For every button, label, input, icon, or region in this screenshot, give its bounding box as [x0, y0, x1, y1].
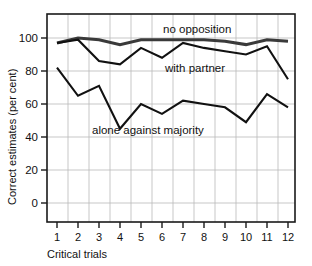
y-tick-labels: 100 80 60 40 20 0 [19, 32, 38, 209]
x-tick-label: 8 [201, 231, 207, 243]
x-tick-label: 12 [282, 231, 294, 243]
series-label-with-partner: with partner [164, 62, 225, 74]
x-tick-labels: 1 2 3 4 5 6 7 8 9 10 11 12 [54, 231, 294, 243]
y-axis-title: Correct estimates (per cent) [6, 69, 18, 205]
x-tick-label: 3 [96, 231, 102, 243]
y-tick-label: 80 [25, 65, 38, 77]
x-axis-ticks [57, 222, 288, 228]
x-tick-label: 9 [222, 231, 228, 243]
line-chart: 100 80 60 40 20 0 1 2 3 4 5 6 7 8 9 10 1… [0, 0, 312, 266]
series-line-no-opposition [57, 38, 288, 45]
y-tick-label: 0 [32, 197, 38, 209]
y-axis-ticks [41, 38, 47, 203]
series-label-alone-against-majority: alone against majority [92, 124, 204, 136]
x-tick-label: 6 [159, 231, 165, 243]
x-tick-label: 10 [240, 231, 252, 243]
series-label-no-opposition: no opposition [163, 23, 231, 35]
x-tick-label: 2 [75, 231, 81, 243]
y-tick-label: 100 [19, 32, 38, 44]
chart-container: 100 80 60 40 20 0 1 2 3 4 5 6 7 8 9 10 1… [0, 0, 312, 266]
x-axis-title: Critical trials [47, 248, 107, 260]
x-tick-label: 4 [117, 231, 123, 243]
x-tick-label: 7 [180, 231, 186, 243]
y-tick-label: 20 [25, 164, 38, 176]
series-line-alone-against-majority [57, 68, 288, 129]
y-tick-label: 60 [25, 98, 38, 110]
x-tick-label: 5 [138, 231, 144, 243]
y-tick-label: 40 [25, 131, 38, 143]
x-tick-label: 11 [261, 231, 272, 243]
x-tick-label: 1 [54, 231, 60, 243]
